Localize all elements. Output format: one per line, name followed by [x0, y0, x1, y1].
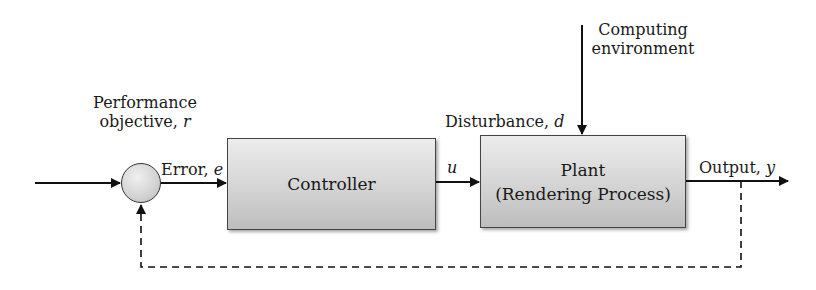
computing-environment-label: Computing environment — [588, 20, 698, 58]
plant-block: Plant (Rendering Process) — [480, 135, 686, 228]
plant-label: Plant — [561, 158, 606, 182]
var-u: u — [447, 158, 457, 177]
control-signal-label: u — [447, 158, 457, 177]
performance-objective-label: Performance objective, r — [80, 93, 210, 131]
disturbance-label: Disturbance, d — [445, 112, 564, 131]
controller-label: Controller — [287, 172, 375, 196]
var-r: r — [183, 112, 191, 131]
output-label: Output, y — [699, 158, 775, 177]
summing-junction — [121, 163, 161, 203]
var-d: d — [554, 112, 564, 131]
error-label: Error, e — [161, 160, 223, 179]
plant-sublabel: (Rendering Process) — [495, 182, 671, 206]
controller-block: Controller — [227, 138, 436, 230]
var-e: e — [214, 160, 223, 179]
var-y: y — [766, 158, 775, 177]
